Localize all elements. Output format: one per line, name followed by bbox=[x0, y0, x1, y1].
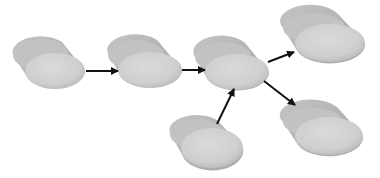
node-c bbox=[193, 36, 269, 91]
node-e-front bbox=[181, 128, 243, 168]
node-c-front bbox=[205, 54, 269, 90]
node-a-front bbox=[25, 53, 85, 89]
node-f bbox=[280, 100, 363, 157]
node-b-front bbox=[118, 52, 182, 88]
arrow-e-to-c bbox=[217, 89, 234, 124]
arrow-c-to-d bbox=[268, 52, 294, 62]
node-d-front bbox=[295, 24, 365, 62]
flow-diagram bbox=[0, 0, 380, 178]
node-d bbox=[280, 5, 365, 64]
node-f-front bbox=[295, 117, 363, 155]
node-b bbox=[107, 34, 182, 88]
node-e bbox=[169, 115, 243, 170]
node-a bbox=[13, 36, 85, 89]
arrow-c-to-f bbox=[264, 81, 295, 105]
